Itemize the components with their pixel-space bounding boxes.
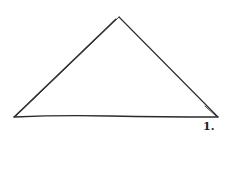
triangle-base bbox=[14, 116, 218, 117]
triangle-right-edge bbox=[119, 17, 218, 117]
triangle-sketch bbox=[0, 0, 232, 176]
triangle-left-edge bbox=[14, 19, 116, 117]
figure-label: 1. bbox=[203, 120, 214, 133]
